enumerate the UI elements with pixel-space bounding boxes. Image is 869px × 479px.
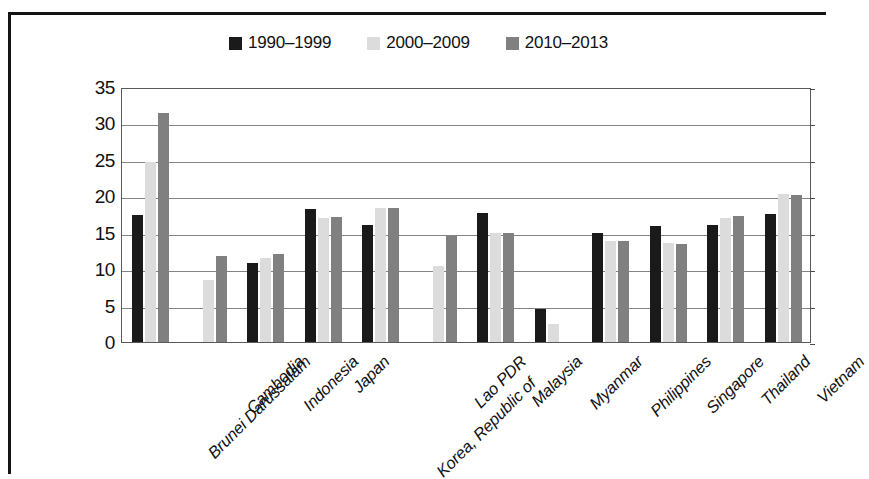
bar bbox=[650, 226, 661, 342]
x-tick-label: Thailand bbox=[757, 352, 814, 409]
y-tick-mark bbox=[810, 344, 815, 345]
bar bbox=[503, 233, 514, 342]
chart-legend: 1990–19992000–20092010–2013 bbox=[11, 33, 826, 53]
y-tick-label: 35 bbox=[95, 77, 115, 99]
legend-swatch-black bbox=[229, 37, 242, 50]
x-axis: Brunei DarussalamCambodiaIndonesiaJapanK… bbox=[121, 346, 811, 479]
y-tick-label: 0 bbox=[105, 332, 115, 354]
bar-group bbox=[467, 89, 525, 342]
bar bbox=[375, 208, 386, 342]
bar bbox=[592, 233, 603, 342]
bar bbox=[331, 217, 342, 342]
bar-group bbox=[122, 89, 180, 342]
bar bbox=[676, 244, 687, 342]
y-tick-label: 20 bbox=[95, 186, 115, 208]
bar bbox=[765, 214, 776, 342]
bar-group bbox=[295, 89, 353, 342]
bar bbox=[260, 258, 271, 342]
legend-item: 2010–2013 bbox=[506, 33, 608, 53]
figure-frame: 1990–19992000–20092010–2013 353025201510… bbox=[8, 12, 826, 474]
plot-area bbox=[121, 88, 811, 343]
bar bbox=[733, 216, 744, 342]
bar bbox=[433, 266, 444, 343]
legend-label: 2000–2009 bbox=[386, 33, 469, 53]
x-tick-label: Myanmar bbox=[586, 352, 647, 413]
legend-label: 2010–2013 bbox=[525, 33, 608, 53]
bar-group bbox=[180, 89, 238, 342]
bar-group bbox=[237, 89, 295, 342]
bar-group bbox=[582, 89, 640, 342]
bar bbox=[778, 194, 789, 342]
legend-swatch-light-gray bbox=[367, 37, 380, 50]
bar bbox=[477, 213, 488, 342]
x-tick-label: Philippines bbox=[646, 352, 714, 420]
x-tick-label: Singapore bbox=[703, 352, 768, 417]
bar bbox=[247, 263, 258, 342]
bar bbox=[158, 113, 169, 343]
bar bbox=[318, 218, 329, 342]
bar bbox=[791, 195, 802, 342]
bar bbox=[663, 243, 674, 342]
bar bbox=[490, 233, 501, 342]
bar-group bbox=[755, 89, 813, 342]
bar bbox=[605, 241, 616, 342]
bar bbox=[132, 215, 143, 342]
y-tick-label: 25 bbox=[95, 150, 115, 172]
bar bbox=[535, 309, 546, 342]
legend-item: 1990–1999 bbox=[229, 33, 331, 53]
bar bbox=[216, 256, 227, 342]
y-tick-label: 30 bbox=[95, 113, 115, 135]
x-tick-label: Malaysia bbox=[527, 352, 585, 410]
bar-group bbox=[352, 89, 410, 342]
bar bbox=[145, 162, 156, 342]
bar-group bbox=[525, 89, 583, 342]
y-tick-label: 15 bbox=[95, 223, 115, 245]
bar bbox=[203, 280, 214, 342]
bar bbox=[707, 225, 718, 342]
bar bbox=[273, 254, 284, 342]
bar bbox=[388, 208, 399, 342]
bar bbox=[618, 241, 629, 342]
y-axis: 35302520151050 bbox=[69, 88, 115, 343]
bar bbox=[446, 236, 457, 342]
y-tick-label: 5 bbox=[105, 296, 115, 318]
x-tick-label: Vietnam bbox=[813, 352, 868, 407]
bar bbox=[305, 209, 316, 342]
bar bbox=[720, 218, 731, 342]
x-tick-label: Cambodia bbox=[243, 352, 308, 417]
bar-group bbox=[640, 89, 698, 342]
legend-item: 2000–2009 bbox=[367, 33, 469, 53]
bar bbox=[362, 225, 373, 342]
bar bbox=[548, 324, 559, 342]
bar-group bbox=[697, 89, 755, 342]
legend-label: 1990–1999 bbox=[248, 33, 331, 53]
bar-group bbox=[410, 89, 468, 342]
y-tick-label: 10 bbox=[95, 259, 115, 281]
legend-swatch-medium-gray bbox=[506, 37, 519, 50]
